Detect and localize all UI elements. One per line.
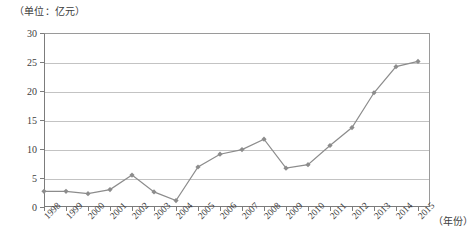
gridline xyxy=(45,121,429,122)
gridline xyxy=(45,150,429,151)
gridline xyxy=(45,179,429,180)
y-axis-tick-label: 5 xyxy=(9,173,37,184)
y-axis-tick-mark xyxy=(40,62,44,63)
chart-figure: （单位：亿元） （年份） 051015202530199819992000200… xyxy=(0,0,470,250)
y-axis-tick-label: 25 xyxy=(9,57,37,68)
x-axis-title: （年份） xyxy=(433,213,470,228)
y-axis-tick-label: 10 xyxy=(9,144,37,155)
y-axis-tick-label: 30 xyxy=(9,28,37,39)
y-axis-tick-label: 15 xyxy=(9,115,37,126)
y-axis-unit-label: （单位：亿元） xyxy=(14,3,85,18)
y-axis-tick-label: 0 xyxy=(9,202,37,213)
gridline xyxy=(45,92,429,93)
y-axis-tick-label: 20 xyxy=(9,86,37,97)
gridline xyxy=(45,63,429,64)
y-axis-tick-mark xyxy=(40,149,44,150)
y-axis-tick-mark xyxy=(40,91,44,92)
y-axis-tick-mark xyxy=(40,178,44,179)
y-axis-tick-mark xyxy=(40,120,44,121)
y-axis-tick-mark xyxy=(40,33,44,34)
figure-caption xyxy=(0,243,470,250)
plot-area xyxy=(44,33,430,207)
